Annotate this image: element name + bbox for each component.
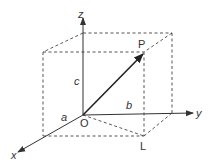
x-axis (18, 115, 83, 152)
y-axis (83, 113, 193, 115)
edge-top-right (144, 33, 172, 52)
dimension-c-label: c (74, 75, 80, 87)
point-p-label: P (138, 38, 145, 50)
point-o-label: O (80, 117, 89, 129)
edge-bottom-right (144, 113, 172, 136)
edge-o-to-l (83, 115, 144, 136)
coordinate-diagram: z y x P O L c b a (0, 0, 209, 167)
point-l-label: L (140, 140, 146, 152)
dimension-a-label: a (61, 111, 67, 123)
axes (18, 18, 193, 152)
vector-op (83, 54, 143, 115)
x-axis-label: x (10, 149, 17, 161)
z-axis-label: z (77, 8, 84, 20)
dimension-b-label: b (126, 99, 132, 111)
edge-top-left (43, 33, 83, 52)
y-axis-label: y (195, 107, 203, 119)
